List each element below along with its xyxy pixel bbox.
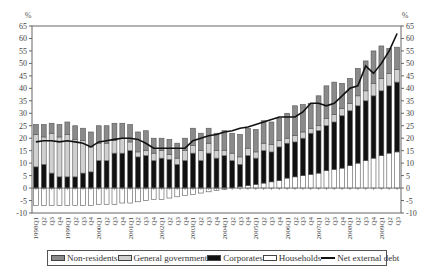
bar-non-residents [167,139,172,154]
bar-corporates [96,161,101,188]
bar-general-government [167,154,172,159]
bar-non-residents [112,123,117,140]
x-tick-label: Q4 [370,217,378,226]
bar-households [277,181,282,188]
left-axis-unit: % [25,11,32,20]
x-tick-label: Q3 [142,217,150,226]
bar-non-residents [96,126,101,143]
x-tick-label: 2001Q1 [127,217,135,240]
y-tick-label-left: 25 [19,122,27,131]
x-tick-label: Q3 [205,217,213,226]
y-tick-label-left: 20 [19,134,27,143]
bar-general-government [222,151,227,156]
y-tick-label-right: 25 [406,122,414,131]
bar-general-government [191,146,196,153]
bar-non-residents [151,138,156,153]
x-tick-label: Q4 [213,217,221,226]
x-tick-label: 2008Q1 [346,217,354,240]
bar-corporates [57,177,62,188]
bar-non-residents [261,121,266,143]
bar-households [49,188,54,205]
bar-corporates [206,153,211,188]
bar-general-government [293,136,298,142]
bar-general-government [316,126,321,131]
bar-corporates [371,96,376,158]
legend-label: General government [134,253,208,263]
bar-non-residents [269,122,274,144]
bar-general-government [136,152,141,157]
bar-general-government [151,153,156,160]
y-tick-label-left: 10 [19,159,27,168]
bar-non-residents [245,128,250,148]
bar-corporates [230,161,235,188]
x-tick-label: 2006Q1 [284,217,292,240]
x-tick-label: Q2 [197,217,205,226]
y-tick-label-right: 15 [406,147,414,156]
bar-non-residents [293,106,298,136]
x-tick-label: Q2 [260,217,268,226]
bar-corporates [395,82,400,152]
bar-corporates [348,111,353,166]
chart-legend: Non-residents General government Corpora… [47,250,387,266]
bar-households [81,188,86,205]
bar-general-government [395,70,400,82]
bar-corporates [277,147,282,181]
x-tick-label: 2004Q1 [221,217,229,240]
bar-general-government [175,158,180,164]
bar-general-government [300,132,305,138]
legend-swatch-icon [118,255,132,261]
x-tick-label: Q4 [150,217,158,226]
bar-corporates [191,153,196,188]
bar-corporates [65,177,70,188]
bar-households [104,188,109,204]
bar-corporates [104,161,109,188]
bar-general-government [387,73,392,85]
bar-general-government [253,152,258,158]
x-tick-label: 2007Q1 [315,217,323,240]
bar-households [269,182,274,188]
bar-non-residents [214,133,219,150]
bar-general-government [348,103,353,110]
bar-households [293,177,298,188]
bar-general-government [340,108,345,115]
y-tick-label-left: 50 [19,59,27,68]
bar-households [300,176,305,188]
bar-non-residents [332,82,337,114]
bar-non-residents [65,122,70,134]
x-tick-label: 2002Q1 [158,217,166,240]
legend-item-non-residents: Non-residents [51,253,118,263]
bar-non-residents [143,131,148,151]
bar-general-government [33,134,38,166]
bar-households [128,188,133,203]
x-tick-label: Q3 [362,217,370,226]
y-tick-label-left: 35 [19,97,27,106]
bar-corporates [387,86,392,153]
bar-corporates [128,151,133,188]
bar-households [261,183,266,188]
x-tick-label: Q3 [268,217,276,226]
bar-general-government [371,83,376,95]
legend-swatch-icon [51,255,65,261]
bar-non-residents [128,124,133,141]
bar-general-government [81,141,86,173]
x-tick-label: Q2 [323,217,331,226]
bar-non-residents [300,105,305,132]
y-tick-label-left: 5 [23,172,27,181]
bar-non-residents [57,124,62,136]
bar-households [371,158,376,188]
bar-corporates [33,167,38,188]
x-tick-label: Q2 [166,217,174,226]
bar-households [285,178,290,188]
y-tick-label-left: -5 [20,197,27,206]
x-tick-label: Q2 [134,217,142,226]
y-tick-label-right: 20 [406,134,414,143]
bar-general-government [143,151,148,156]
bar-general-government [214,151,219,158]
bar-non-residents [73,126,78,140]
legend-item-net-external-debt: Net external debt [321,253,399,263]
bar-corporates [332,122,337,169]
bar-corporates [245,156,250,186]
bar-corporates [379,91,384,156]
y-tick-label-left: 65 [19,22,27,31]
x-tick-label: Q2 [354,217,362,226]
